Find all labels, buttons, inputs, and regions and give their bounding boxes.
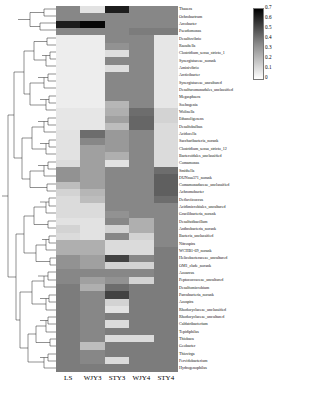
- heatmap-cell: [80, 211, 104, 218]
- heatmap-cell: [56, 13, 80, 20]
- row-label: Clostridium_sensu_stricto_12: [179, 147, 227, 151]
- heatmap-row: [56, 350, 178, 357]
- heatmap-cell: [56, 262, 80, 269]
- column-label: STY4: [154, 374, 178, 388]
- heatmap-cell: [56, 86, 80, 93]
- colorbar-tick-label: 0.1: [265, 65, 271, 70]
- heatmap-cell: [154, 21, 178, 28]
- heatmap-cell: [154, 174, 178, 181]
- colorbar-tick-label: 0.6: [265, 15, 271, 20]
- heatmap-row: [56, 328, 178, 335]
- heatmap-row: [56, 225, 178, 232]
- heatmap-cell: [129, 364, 153, 371]
- row-label: Defluviicoccus: [179, 198, 203, 202]
- heatmap-cell: [129, 123, 153, 130]
- heatmap-cell: [56, 57, 80, 64]
- heatmap-cell: [105, 28, 129, 35]
- heatmap-cell: [56, 335, 80, 342]
- row-label: Achromobacter: [179, 190, 204, 194]
- heatmap-row: [56, 203, 178, 210]
- heatmap-cell: [80, 21, 104, 28]
- heatmap-cell: [105, 211, 129, 218]
- heatmap-cell: [80, 203, 104, 210]
- row-label: Helicobacteraceae_uncultured: [179, 256, 227, 260]
- heatmap-cell: [154, 167, 178, 174]
- heatmap-cell: [80, 364, 104, 371]
- heatmap-cell: [56, 35, 80, 42]
- row-label: Hydrogenophilus: [179, 366, 207, 370]
- heatmap-cell: [154, 255, 178, 262]
- row-label: Comamonadaceae_unclassified: [179, 183, 229, 187]
- heatmap-cell: [105, 116, 129, 123]
- heatmap-row: [56, 291, 178, 298]
- heatmap-cell: [56, 328, 80, 335]
- heatmap-cell: [80, 240, 104, 247]
- heatmap-cell: [129, 28, 153, 35]
- column-label: STY3: [105, 374, 129, 388]
- heatmap-row: [56, 28, 178, 35]
- heatmap-cell: [56, 101, 80, 108]
- heatmap-cell: [105, 306, 129, 313]
- heatmap-cell: [56, 211, 80, 218]
- heatmap-cell: [154, 262, 178, 269]
- heatmap-cell: [129, 130, 153, 137]
- heatmap-cell: [105, 269, 129, 276]
- heatmap-cell: [56, 299, 80, 306]
- heatmap-row: [56, 72, 178, 79]
- heatmap-row: [56, 174, 178, 181]
- row-label: OM1_clade_norank: [179, 264, 211, 268]
- colorbar: 0.70.60.50.40.30.20.10: [253, 6, 283, 86]
- heatmap-row: [56, 247, 178, 254]
- heatmap-cell: [129, 284, 153, 291]
- heatmap-cell: [56, 123, 80, 130]
- colorbar-tick-label: 0.2: [265, 55, 271, 60]
- row-label: Saccharibacteria_norank: [179, 139, 218, 143]
- heatmap-cell: [80, 167, 104, 174]
- heatmap-cell: [80, 145, 104, 152]
- heatmap-cell: [154, 357, 178, 364]
- heatmap-row: [56, 269, 178, 276]
- heatmap-cell: [105, 225, 129, 232]
- heatmap-cell: [56, 364, 80, 371]
- heatmap-cell: [80, 50, 104, 57]
- row-label: Desulfomicrobium: [179, 286, 209, 290]
- heatmap-cell: [129, 57, 153, 64]
- heatmap-cell: [56, 43, 80, 50]
- heatmap-cell: [129, 233, 153, 240]
- heatmap-cell: [80, 225, 104, 232]
- heatmap-cell: [56, 138, 80, 145]
- heatmap-cell: [56, 189, 80, 196]
- heatmap-cell: [105, 108, 129, 115]
- heatmap-cell: [154, 108, 178, 115]
- heatmap-cell: [80, 13, 104, 20]
- heatmap-cell: [80, 247, 104, 254]
- heatmap-row: [56, 86, 178, 93]
- heatmap-cell: [154, 320, 178, 327]
- heatmap-cell: [56, 174, 80, 181]
- heatmap-cell: [105, 196, 129, 203]
- heatmap-cell: [154, 211, 178, 218]
- heatmap-cell: [154, 152, 178, 159]
- heatmap-cell: [105, 43, 129, 50]
- heatmap-cell: [129, 247, 153, 254]
- heatmap-cell: [129, 269, 153, 276]
- colorbar-gradient: [253, 8, 264, 80]
- heatmap-cell: [154, 13, 178, 20]
- heatmap-row: [56, 35, 178, 42]
- colorbar-tick-label: 0.5: [265, 25, 271, 30]
- heatmap-cell: [56, 313, 80, 320]
- heatmap-cell: [129, 342, 153, 349]
- heatmap-cell: [129, 167, 153, 174]
- heatmap-cell: [56, 167, 80, 174]
- heatmap-cell: [154, 35, 178, 42]
- heatmap-cell: [129, 189, 153, 196]
- row-label: Thiobaca: [179, 337, 194, 341]
- heatmap-cell: [105, 50, 129, 57]
- heatmap-cell: [154, 284, 178, 291]
- heatmap-cell: [56, 233, 80, 240]
- heatmap-cell: [80, 291, 104, 298]
- heatmap-cell: [154, 116, 178, 123]
- heatmap-cell: [56, 116, 80, 123]
- heatmap-cell: [129, 152, 153, 159]
- heatmap-cell: [129, 357, 153, 364]
